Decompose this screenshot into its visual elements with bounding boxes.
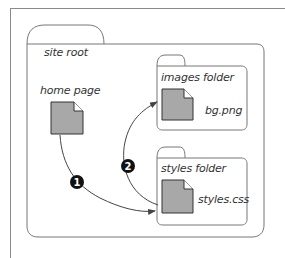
arrow-step-2 bbox=[124, 102, 158, 205]
step-badge-1: 1 bbox=[70, 175, 84, 189]
arrow-step-1 bbox=[60, 135, 155, 211]
file-icon-home-page bbox=[51, 102, 83, 134]
file-label-bg-png: bg.png bbox=[205, 104, 242, 117]
folder-label-site-root: site root bbox=[44, 46, 88, 59]
file-icon-styles-css bbox=[162, 180, 193, 213]
file-icon-bg-png bbox=[162, 89, 193, 120]
step-badge-2: 2 bbox=[121, 159, 135, 173]
folder-label-images: images folder bbox=[161, 71, 234, 84]
svg-text:2: 2 bbox=[125, 161, 132, 172]
svg-text:1: 1 bbox=[74, 177, 81, 188]
file-label-styles-css: styles.css bbox=[198, 193, 249, 206]
file-label-home-page: home page bbox=[40, 84, 100, 97]
folder-label-styles: styles folder bbox=[161, 162, 226, 175]
